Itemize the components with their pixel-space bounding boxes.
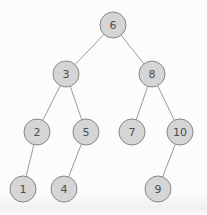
tree-node-6: 6: [100, 12, 126, 38]
tree-node-1: 1: [10, 176, 36, 202]
tree-node-label: 6: [110, 19, 117, 32]
tree-edge-5-4: [69, 144, 82, 177]
tree-edge-8-7: [136, 86, 148, 119]
tree-edge-6-8: [121, 35, 144, 64]
tree-node-label: 9: [155, 183, 162, 196]
tree-edge-3-5: [70, 86, 82, 119]
tree-node-4: 4: [51, 176, 77, 202]
tree-node-7: 7: [119, 119, 145, 145]
tree-edge-8-10: [158, 86, 175, 121]
tree-edge-10-9: [163, 144, 176, 177]
tree-node-label: 4: [61, 183, 68, 196]
tree-canvas: 63825710149: [0, 0, 207, 215]
tree-node-label: 7: [129, 126, 136, 139]
tree-node-9: 9: [145, 176, 171, 202]
binary-tree-diagram: 63825710149: [0, 0, 207, 215]
tree-node-10: 10: [167, 119, 193, 145]
tree-edge-3-2: [43, 86, 60, 121]
tree-node-label: 8: [149, 68, 156, 81]
tree-node-label: 1: [20, 183, 27, 196]
tree-edge-6-3: [75, 34, 104, 64]
tree-node-5: 5: [73, 119, 99, 145]
tree-edge-2-1: [26, 145, 34, 177]
tree-node-2: 2: [24, 119, 50, 145]
tree-node-label: 5: [83, 126, 90, 139]
tree-node-8: 8: [139, 61, 165, 87]
tree-node-3: 3: [53, 61, 79, 87]
tree-node-label: 10: [173, 126, 187, 139]
tree-node-label: 2: [34, 126, 41, 139]
tree-node-label: 3: [63, 68, 70, 81]
